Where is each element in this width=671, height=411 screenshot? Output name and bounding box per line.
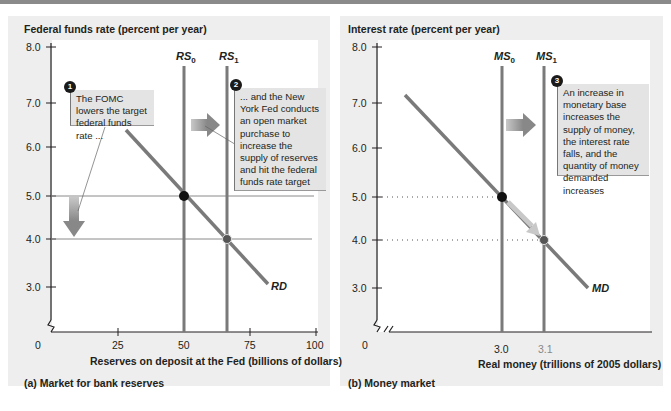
x-tick-3-0: 3.0 xyxy=(494,343,509,355)
down-arrow-a xyxy=(63,197,85,237)
equilibrium-point-a1 xyxy=(223,235,232,244)
x-tick-3-1: 3.1 xyxy=(538,343,553,355)
annotation-3: An increase in monetary base increases t… xyxy=(557,84,649,176)
equilibrium-point-b1 xyxy=(540,236,549,245)
rd-label: RD xyxy=(271,280,287,292)
y-tick-3-b: 3.0 xyxy=(352,282,367,294)
equilibrium-point-b0 xyxy=(497,192,507,202)
rs0-label: RS0 xyxy=(176,50,196,65)
annotation-2-text: ... and the New York Fed conducts an ope… xyxy=(240,91,319,187)
y-tick-5-b: 5.0 xyxy=(352,191,367,203)
ms1-label: MS1 xyxy=(536,50,557,65)
y-tick-8-b: 8.0 xyxy=(352,41,367,53)
y-tick-4-b: 4.0 xyxy=(352,234,367,246)
annotation-3-badge: 3 xyxy=(551,75,563,87)
slide-arrow-b xyxy=(508,202,540,236)
ms0-label: MS0 xyxy=(494,50,515,65)
rs1-label: RS1 xyxy=(219,50,239,65)
right-shift-arrow-b xyxy=(506,113,536,137)
caption-b: (b) Money market xyxy=(348,377,435,389)
annotation-2-badge: 2 xyxy=(230,79,242,91)
md-label: MD xyxy=(592,282,609,294)
equilibrium-point-a0 xyxy=(179,191,189,201)
y-axis-title-b: Interest rate (percent per year) xyxy=(348,23,500,35)
y-tick-7-b: 7.0 xyxy=(352,97,367,109)
x-axis-title-b: Real money (trillions of 2005 dollars) xyxy=(478,358,661,370)
y-tick-6-b: 6.0 xyxy=(352,142,367,154)
chart-graphics xyxy=(0,0,671,411)
annotation-2: ... and the New York Fed conducts an ope… xyxy=(234,88,326,191)
annotation-1: The FOMC lowers the target federal funds… xyxy=(70,90,154,126)
right-shift-arrow-a xyxy=(191,113,220,137)
x-tick-0-b: 0 xyxy=(362,339,368,351)
annotation-1-badge: 1 xyxy=(64,81,76,93)
